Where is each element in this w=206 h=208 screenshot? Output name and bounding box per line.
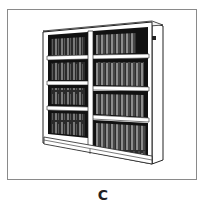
side-panel [152,22,163,164]
figure-caption: C [0,187,206,203]
bookshelf-illustration [0,0,206,208]
